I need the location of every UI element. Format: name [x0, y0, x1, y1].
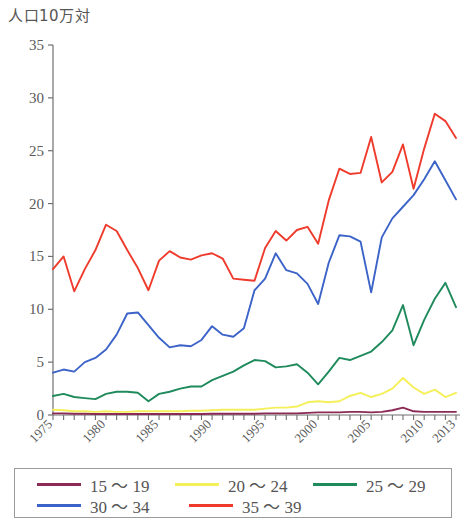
legend-label-35-39: 35 ～ 39 — [242, 493, 302, 518]
svg-text:20: 20 — [29, 196, 44, 212]
svg-text:1995: 1995 — [238, 417, 267, 446]
legend: 15 ～ 19 20 ～ 24 25 ～ 29 30 ～ 34 35 ～ 39 — [14, 468, 452, 518]
svg-text:35: 35 — [29, 37, 44, 53]
svg-text:1980: 1980 — [79, 417, 108, 446]
legend-swatch-35-39 — [189, 504, 233, 507]
plot-area: 0510152025303519751980198519901995200020… — [0, 0, 473, 462]
legend-swatch-30-34 — [37, 504, 81, 507]
svg-text:5: 5 — [37, 354, 45, 370]
legend-row: 30 ～ 34 35 ～ 39 — [15, 495, 451, 516]
svg-text:2010: 2010 — [397, 417, 426, 446]
legend-item-35-39: 35 ～ 39 — [189, 493, 341, 518]
svg-text:1990: 1990 — [185, 417, 214, 446]
svg-text:30: 30 — [29, 90, 44, 106]
legend-item-30-34: 30 ～ 34 — [37, 493, 189, 518]
svg-text:2005: 2005 — [344, 417, 373, 446]
line-chart-figure: 人口10万対 051015202530351975198019851990199… — [0, 0, 473, 527]
legend-row: 15 ～ 19 20 ～ 24 25 ～ 29 — [15, 474, 451, 495]
svg-text:10: 10 — [29, 301, 44, 317]
svg-text:2013: 2013 — [429, 417, 458, 446]
legend-label-30-34: 30 ～ 34 — [90, 493, 150, 518]
legend-swatch-20-24 — [175, 483, 219, 486]
svg-text:2000: 2000 — [291, 417, 320, 446]
plot-svg: 0510152025303519751980198519901995200020… — [0, 0, 473, 462]
svg-text:1975: 1975 — [26, 417, 55, 446]
legend-swatch-25-29 — [313, 483, 357, 486]
svg-text:15: 15 — [29, 248, 44, 264]
svg-text:1985: 1985 — [132, 417, 161, 446]
legend-label-25-29: 25 ～ 29 — [366, 472, 426, 497]
svg-text:25: 25 — [29, 143, 44, 159]
legend-swatch-15-19 — [37, 483, 81, 486]
